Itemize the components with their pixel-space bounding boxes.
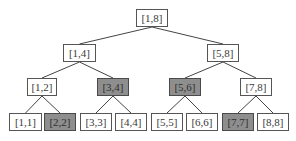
- tree-edge: [96, 96, 113, 113]
- node-8-8: [8,8]: [257, 113, 289, 131]
- node-7-8: [7,8]: [240, 78, 272, 96]
- segment-tree-diagram: [1,8] [1,4] [5,8] [1,2] [3,4] [5,6] [7,8…: [0, 0, 296, 141]
- tree-edge: [152, 27, 223, 44]
- node-5-6: [5,6]: [169, 78, 201, 96]
- node-4-4: [4,4]: [115, 113, 147, 131]
- node-1-1: [1,1]: [9, 113, 42, 131]
- node-1-2: [1,2]: [27, 78, 57, 96]
- tree-edge: [185, 62, 223, 78]
- tree-edge: [80, 27, 153, 44]
- tree-edge: [113, 96, 131, 113]
- node-5-8: [5,8]: [207, 44, 239, 62]
- node-6-6: [6,6]: [186, 113, 218, 131]
- tree-edge: [256, 96, 273, 113]
- tree-edge: [185, 96, 202, 113]
- tree-edge: [42, 62, 80, 78]
- tree-edge: [80, 62, 114, 78]
- node-2-2: [2,2]: [44, 113, 76, 131]
- tree-edge: [26, 96, 43, 113]
- node-1-8: [1,8]: [136, 9, 168, 27]
- tree-edge: [42, 96, 60, 113]
- node-1-4: [1,4]: [63, 44, 96, 62]
- node-7-7: [7,7]: [222, 113, 254, 131]
- tree-edge: [167, 96, 185, 113]
- tree-edge: [223, 62, 256, 78]
- node-5-5: [5,5]: [151, 113, 183, 131]
- node-3-4: [3,4]: [97, 78, 129, 96]
- tree-edge: [238, 96, 256, 113]
- node-3-3: [3,3]: [80, 113, 112, 131]
